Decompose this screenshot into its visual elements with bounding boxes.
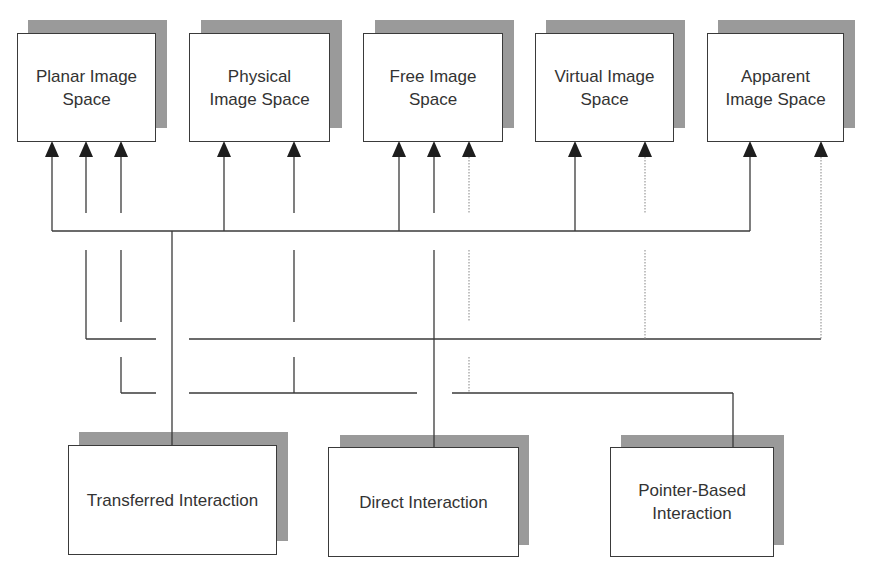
image-space-free: Free Image Space (363, 33, 503, 142)
interaction-transferred: Transferred Interaction (68, 445, 277, 555)
interaction-label: Transferred Interaction (87, 489, 258, 512)
image-space-label: Apparent Image Space (725, 65, 825, 111)
image-space-label: Planar Image Space (36, 65, 137, 111)
image-space-label: Virtual Image Space (555, 65, 655, 111)
interaction-pointer: Pointer-Based Interaction (610, 447, 774, 557)
image-space-apparent: Apparent Image Space (707, 33, 844, 142)
image-space-label: Physical Image Space (209, 65, 309, 111)
interaction-label: Direct Interaction (359, 491, 488, 514)
image-space-virtual: Virtual Image Space (535, 33, 674, 142)
arrowheads (45, 141, 828, 157)
image-space-planar: Planar Image Space (17, 33, 156, 142)
image-space-physical: Physical Image Space (189, 33, 330, 142)
interaction-label: Pointer-Based Interaction (638, 479, 746, 525)
image-space-label: Free Image Space (390, 65, 477, 111)
interaction-direct: Direct Interaction (328, 447, 519, 557)
